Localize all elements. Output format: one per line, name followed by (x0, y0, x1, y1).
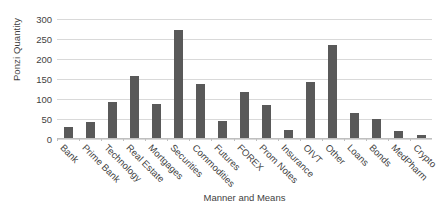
bar-slot (57, 18, 79, 138)
x-label-slot: Other (322, 140, 344, 188)
bar-slot (366, 18, 388, 138)
x-label-slot: Prime Bank (79, 140, 101, 188)
bar[interactable] (152, 104, 161, 138)
x-axis-tick-label: Crypto (411, 142, 439, 170)
x-label-slot: Insurance (278, 140, 300, 188)
bar[interactable] (350, 113, 359, 138)
plot-area: 050100150200250300 (57, 19, 432, 139)
bar-slot (211, 18, 233, 138)
bar[interactable] (372, 119, 381, 138)
x-axis-line (57, 138, 432, 139)
bar-slot (278, 18, 300, 138)
bar[interactable] (328, 45, 337, 138)
x-label-slot: Real Estate (123, 140, 145, 188)
bar[interactable] (218, 121, 227, 138)
x-axis-tick-label: Bank (58, 142, 81, 165)
bar-slot (300, 18, 322, 138)
x-label-slot: Mortgages (145, 140, 167, 188)
bar-slot (234, 18, 256, 138)
bar[interactable] (64, 127, 73, 138)
bar-slot (344, 18, 366, 138)
x-label-slot: Futures (211, 140, 233, 188)
x-label-slot: Prom Notes (256, 140, 278, 188)
bar[interactable] (417, 135, 426, 138)
x-label-slot: Commodities (189, 140, 211, 188)
x-axis-tick-labels: BankPrime BankTechnologyReal EstateMortg… (57, 140, 432, 188)
bar[interactable] (174, 30, 183, 138)
y-axis-tick-label: 200 (12, 54, 52, 65)
bar-slot (388, 18, 410, 138)
bar[interactable] (196, 84, 205, 138)
y-axis-tick-label: 0 (12, 134, 52, 145)
bar[interactable] (240, 92, 249, 138)
y-axis-tick-label: 50 (12, 114, 52, 125)
bar-slot (79, 18, 101, 138)
y-axis-tick-label: 250 (12, 34, 52, 45)
x-label-slot: Bank (57, 140, 79, 188)
ponzi-quantity-bar-chart: Ponzi Quantity 050100150200250300 BankPr… (0, 0, 445, 213)
bar-slot (322, 18, 344, 138)
bar-slot (101, 18, 123, 138)
x-label-slot: Securities (167, 140, 189, 188)
y-axis-tick-label: 300 (12, 14, 52, 25)
x-label-slot: Bonds (366, 140, 388, 188)
bar[interactable] (86, 122, 95, 138)
bar-slot (410, 18, 432, 138)
bar-slot (145, 18, 167, 138)
x-label-slot: MedPharm (388, 140, 410, 188)
x-label-slot: OIVT (300, 140, 322, 188)
y-axis-tick-label: 100 (12, 94, 52, 105)
bar[interactable] (394, 131, 403, 138)
bar-series (57, 18, 432, 138)
x-label-slot: Loans (344, 140, 366, 188)
x-axis-title: Manner and Means (57, 192, 432, 203)
bar[interactable] (306, 82, 315, 138)
bar[interactable] (108, 102, 117, 138)
bar-slot (167, 18, 189, 138)
bar-slot (123, 18, 145, 138)
x-label-slot: Technology (101, 140, 123, 188)
y-axis-tick-label: 150 (12, 74, 52, 85)
bar[interactable] (284, 130, 293, 138)
bar[interactable] (262, 105, 271, 138)
x-label-slot: FOREX (234, 140, 256, 188)
bar-slot (189, 18, 211, 138)
bar[interactable] (130, 76, 139, 138)
x-label-slot: Crypto (410, 140, 432, 188)
bar-slot (256, 18, 278, 138)
